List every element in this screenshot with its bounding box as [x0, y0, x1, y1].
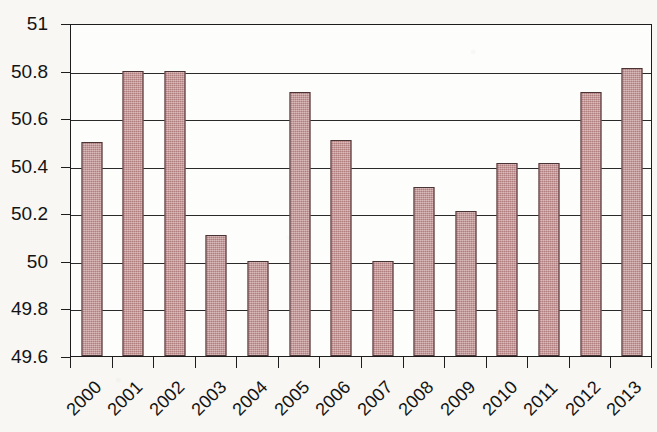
y-axis-tick-mark [61, 72, 70, 73]
bar-series [71, 25, 651, 356]
y-axis-tick-mark [61, 119, 70, 120]
x-axis-tick-label: 2004 [229, 377, 273, 421]
bar[interactable] [539, 163, 560, 356]
y-axis-tick-mark [61, 214, 70, 215]
bar[interactable] [206, 235, 227, 356]
bar-chart: 5150.850.650.450.25049.849.6 20002001200… [0, 0, 657, 432]
bar-slot [279, 25, 321, 356]
y-axis-tick-labels: 5150.850.650.450.25049.849.6 [0, 0, 60, 432]
y-axis-tick-label: 49.6 [11, 347, 48, 366]
bar-slot [445, 25, 487, 356]
x-axis-tick-labels: 2000200120022003200420052006200720082009… [70, 357, 652, 432]
y-axis-tick-mark [61, 24, 70, 25]
x-axis-tick-label: 2006 [312, 377, 356, 421]
bar-slot [196, 25, 238, 356]
bar-slot [487, 25, 529, 356]
bar[interactable] [81, 142, 102, 356]
x-axis-tick-label: 2007 [353, 377, 397, 421]
x-axis-tick-label: 2008 [395, 377, 439, 421]
bar[interactable] [580, 92, 601, 356]
bar[interactable] [622, 68, 643, 356]
y-axis-tick-label: 50.2 [11, 204, 48, 223]
bar[interactable] [164, 71, 185, 356]
x-axis-tick-label: 2005 [270, 377, 314, 421]
x-axis-tick-label: 2013 [603, 377, 647, 421]
x-axis-tick-label: 2010 [478, 377, 522, 421]
bar-slot [611, 25, 653, 356]
bar[interactable] [248, 261, 269, 356]
bar-slot [404, 25, 446, 356]
y-axis-tick-label: 49.8 [11, 299, 48, 318]
bar[interactable] [497, 163, 518, 356]
x-axis-tick-label: 2001 [104, 377, 148, 421]
plot-area [70, 24, 652, 357]
y-axis-tick-label: 51 [27, 14, 48, 33]
y-axis-tick-label: 50 [27, 252, 48, 271]
bar-slot [237, 25, 279, 356]
y-axis-tick-mark [61, 357, 70, 358]
bar[interactable] [455, 211, 476, 356]
x-axis-tick-label: 2002 [145, 377, 189, 421]
x-axis-tick-label: 2000 [62, 377, 106, 421]
bar[interactable] [414, 187, 435, 356]
bar-slot [528, 25, 570, 356]
x-axis-tick-label: 2011 [520, 378, 563, 421]
bar-slot [570, 25, 612, 356]
x-axis-tick-label: 2009 [436, 377, 480, 421]
bar[interactable] [372, 261, 393, 356]
bar-slot [362, 25, 404, 356]
bar-slot [71, 25, 113, 356]
x-axis-tick-label: 2012 [561, 377, 605, 421]
y-axis-tick-label: 50.8 [11, 62, 48, 81]
bar-slot [154, 25, 196, 356]
bar[interactable] [123, 71, 144, 356]
x-axis-tick-label: 2003 [187, 377, 231, 421]
bar[interactable] [289, 92, 310, 356]
y-axis-tick-mark [61, 309, 70, 310]
y-axis-tick-mark [61, 262, 70, 263]
y-axis-tick-label: 50.4 [11, 157, 48, 176]
bar[interactable] [331, 140, 352, 356]
bar-slot [320, 25, 362, 356]
bar-slot [113, 25, 155, 356]
y-axis-tick-mark [61, 167, 70, 168]
y-axis-tick-label: 50.6 [11, 109, 48, 128]
